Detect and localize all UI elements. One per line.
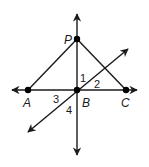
angle-label-1: 1 (80, 72, 86, 84)
point-P (74, 36, 80, 42)
label-B: B (82, 96, 90, 110)
point-B (74, 87, 80, 93)
angle-label-2: 2 (94, 78, 100, 90)
point-A (25, 87, 31, 93)
label-A: A (22, 96, 31, 110)
angle-label-4: 4 (66, 104, 72, 116)
label-P: P (64, 33, 72, 47)
label-C: C (121, 96, 130, 110)
angle-label-3: 3 (53, 93, 59, 105)
geometry-diagram: P A B C 1 2 3 4 (0, 0, 149, 167)
point-C (123, 87, 129, 93)
